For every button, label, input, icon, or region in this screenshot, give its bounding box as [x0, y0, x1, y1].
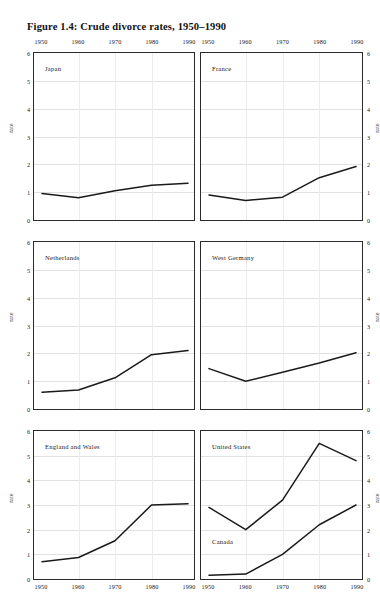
x-axis-tick-label: 1960	[71, 38, 84, 45]
x-axis-tick-label: 1990	[182, 38, 195, 45]
x-axis-tick-label: 1990	[350, 38, 363, 45]
y-axis-title: rate	[374, 123, 380, 133]
y-axis-title: rate	[8, 493, 14, 503]
y-axis-tick-label: 0	[367, 576, 370, 583]
figure-title: Figure 1.4: Crude divorce rates, 1950–19…	[27, 21, 226, 32]
y-axis-title: rate	[374, 493, 380, 503]
series-label: United States	[212, 443, 251, 450]
series-line	[42, 351, 188, 393]
panel-netherlands: Netherlands	[33, 241, 195, 410]
y-axis-tick-label: 1	[367, 378, 370, 385]
series-line	[209, 167, 356, 201]
x-axis-ticks-top-left: 19501960197019801990	[33, 38, 195, 49]
series-layer	[201, 242, 362, 409]
x-axis-tick-label: 1990	[350, 583, 363, 590]
x-axis-ticks-top-right: 19501960197019801990	[200, 38, 363, 49]
x-axis-tick-label: 1950	[34, 38, 47, 45]
series-layer	[201, 431, 362, 579]
panel-france: France	[200, 52, 363, 221]
y-axis-tick-label: 1	[27, 551, 30, 558]
x-axis-tick-label: 1970	[276, 38, 289, 45]
panel-england-and-wales: England and Wales	[33, 430, 195, 580]
y-axis-tick-label: 1	[367, 189, 370, 196]
series-label: France	[212, 65, 231, 72]
series-layer	[34, 53, 194, 220]
y-axis-tick-label: 3	[27, 133, 30, 140]
x-axis-ticks-bottom-right: 19501960197019801990	[200, 583, 363, 594]
y-axis-tick-label: 0	[367, 217, 370, 224]
y-axis-tick-label: 6	[27, 428, 30, 435]
series-label: England and Wales	[45, 443, 100, 450]
x-axis-tick-label: 1970	[108, 38, 121, 45]
series-label: West Germany	[212, 254, 254, 261]
panel-west-germany: West Germany	[200, 241, 363, 410]
y-axis-tick-label: 6	[27, 50, 30, 57]
y-axis-tick-label: 2	[367, 526, 370, 533]
x-axis-tick-label: 1980	[313, 583, 326, 590]
x-axis-tick-label: 1970	[276, 583, 289, 590]
x-axis-tick-label: 1980	[145, 38, 158, 45]
y-axis-title: rate	[8, 312, 14, 322]
y-axis-tick-label: 2	[27, 526, 30, 533]
x-axis-tick-label: 1980	[313, 38, 326, 45]
x-axis-tick-label: 1970	[108, 583, 121, 590]
series-layer	[201, 53, 362, 220]
y-axis-tick-label: 3	[367, 322, 370, 329]
y-axis-title: rate	[8, 123, 14, 133]
y-axis-tick-label: 2	[367, 350, 370, 357]
y-axis-tick-label: 0	[27, 576, 30, 583]
panel-united-states-canada: United StatesCanada	[200, 430, 363, 580]
y-axis-tick-label: 6	[367, 428, 370, 435]
y-axis-tick-label: 4	[367, 477, 370, 484]
y-axis-tick-label: 4	[27, 105, 30, 112]
y-axis-tick-label: 6	[367, 239, 370, 246]
y-axis-tick-label: 3	[367, 133, 370, 140]
y-axis-tick-label: 1	[27, 189, 30, 196]
y-axis-tick-label: 6	[367, 50, 370, 57]
y-axis-tick-label: 3	[27, 322, 30, 329]
y-axis-tick-label: 0	[27, 217, 30, 224]
y-axis-tick-label: 5	[27, 266, 30, 273]
series-label: Netherlands	[45, 254, 80, 261]
y-axis-tick-label: 5	[27, 452, 30, 459]
y-axis-tick-label: 0	[367, 406, 370, 413]
y-axis-ticks-west-germany: 0123456	[367, 241, 379, 410]
series-label: Canada	[212, 538, 233, 545]
x-axis-tick-label: 1950	[34, 583, 47, 590]
y-axis-tick-label: 0	[27, 406, 30, 413]
series-label: Japan	[45, 65, 61, 72]
y-axis-tick-label: 5	[367, 266, 370, 273]
x-axis-tick-label: 1950	[201, 38, 214, 45]
y-axis-tick-label: 2	[27, 350, 30, 357]
series-line	[42, 504, 188, 562]
y-axis-tick-label: 2	[27, 161, 30, 168]
x-axis-ticks-bottom-left: 19501960197019801990	[33, 583, 195, 594]
series-layer	[34, 242, 194, 409]
y-axis-tick-label: 5	[27, 77, 30, 84]
x-axis-tick-label: 1980	[145, 583, 158, 590]
y-axis-tick-label: 4	[367, 105, 370, 112]
y-axis-ticks-japan: 0123456	[18, 52, 30, 221]
x-axis-tick-label: 1960	[71, 583, 84, 590]
y-axis-tick-label: 4	[27, 477, 30, 484]
y-axis-title: rate	[374, 312, 380, 322]
x-axis-tick-label: 1960	[239, 583, 252, 590]
panel-japan: Japan	[33, 52, 195, 221]
y-axis-ticks-netherlands: 0123456	[18, 241, 30, 410]
y-axis-tick-label: 4	[367, 294, 370, 301]
y-axis-ticks-england-and-wales: 0123456	[18, 430, 30, 580]
y-axis-tick-label: 2	[367, 161, 370, 168]
y-axis-tick-label: 5	[367, 452, 370, 459]
x-axis-tick-label: 1960	[239, 38, 252, 45]
series-line	[42, 183, 188, 197]
y-axis-tick-label: 4	[27, 294, 30, 301]
x-axis-tick-label: 1950	[201, 583, 214, 590]
y-axis-tick-label: 5	[367, 77, 370, 84]
x-axis-tick-label: 1990	[182, 583, 195, 590]
y-axis-tick-label: 3	[27, 502, 30, 509]
y-axis-ticks-france: 0123456	[367, 52, 379, 221]
y-axis-tick-label: 6	[27, 239, 30, 246]
series-line	[209, 353, 356, 381]
y-axis-tick-label: 1	[367, 551, 370, 558]
